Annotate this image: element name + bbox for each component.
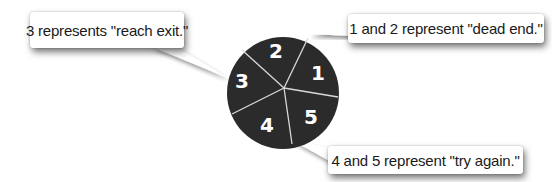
callout-tail-reach-exit (150, 46, 228, 78)
segment-label-2: 2 (269, 39, 283, 63)
callout-tail-dead-end (309, 20, 352, 36)
callout-try-again: 4 and 5 represent "try again." (328, 146, 523, 174)
spinner-disc (227, 37, 339, 149)
segment-label-5: 5 (304, 105, 318, 129)
segment-label-1: 1 (311, 61, 325, 85)
callout-dead-end: 1 and 2 represent "dead end." (348, 14, 544, 43)
segment-label-3: 3 (235, 69, 249, 93)
segment-label-4: 4 (260, 113, 274, 137)
callout-reach-exit: 3 represents "reach exit." (30, 12, 184, 48)
